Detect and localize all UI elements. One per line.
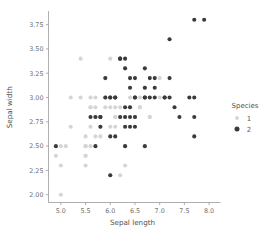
data-point <box>153 86 157 90</box>
data-point <box>118 115 122 119</box>
data-point <box>158 95 162 99</box>
data-point <box>143 86 147 90</box>
data-points-layer <box>54 18 206 197</box>
x-tick-label: 5.0 <box>56 207 66 215</box>
data-point <box>84 154 88 158</box>
legend-entry-label[interactable]: 2 <box>247 126 251 134</box>
data-point <box>118 57 122 61</box>
data-point <box>108 125 112 129</box>
data-point <box>148 76 152 80</box>
data-point <box>192 18 196 22</box>
data-point <box>98 134 102 138</box>
data-point <box>148 115 152 119</box>
data-point <box>128 95 132 99</box>
data-point <box>113 105 117 109</box>
data-point <box>168 76 172 80</box>
data-point <box>168 95 172 99</box>
data-point <box>128 105 132 109</box>
data-point <box>172 105 176 109</box>
data-point <box>113 125 117 129</box>
data-point <box>88 105 92 109</box>
y-axis-ticks: 2.002.252.502.753.003.253.503.75 <box>29 21 48 199</box>
data-point <box>123 66 127 70</box>
data-point <box>158 76 162 80</box>
data-point <box>123 164 127 168</box>
data-point <box>64 144 68 148</box>
data-point <box>192 95 196 99</box>
data-point <box>84 164 88 168</box>
data-point <box>138 105 142 109</box>
legend-marker[interactable] <box>235 116 239 120</box>
data-point <box>177 115 181 119</box>
x-tick-label: 6.0 <box>105 207 115 215</box>
chart-canvas: 5.05.56.06.57.07.58.0 2.002.252.502.753.… <box>0 0 274 239</box>
data-point <box>133 95 137 99</box>
data-point <box>192 134 196 138</box>
data-point <box>108 134 112 138</box>
data-point <box>54 154 58 158</box>
data-point <box>59 164 63 168</box>
data-point <box>103 105 107 109</box>
scatter-plot-figure: 5.05.56.06.57.07.58.0 2.002.252.502.753.… <box>0 0 274 239</box>
data-point <box>113 134 117 138</box>
data-point <box>88 125 92 129</box>
legend-entry-label[interactable]: 1 <box>247 115 251 123</box>
legend-entries: 12 <box>235 115 252 134</box>
data-point <box>123 125 127 129</box>
x-tick-label: 7.0 <box>155 207 165 215</box>
data-point <box>153 76 157 80</box>
data-point <box>103 95 107 99</box>
data-point <box>84 144 88 148</box>
data-point <box>93 144 97 148</box>
data-point <box>202 18 206 22</box>
data-point <box>88 95 92 99</box>
legend-marker[interactable] <box>235 127 240 132</box>
x-tick-label: 5.5 <box>80 207 90 215</box>
data-point <box>123 105 127 109</box>
data-point <box>88 144 92 148</box>
y-tick-label: 2.00 <box>29 191 43 199</box>
data-point <box>123 144 127 148</box>
data-point <box>123 115 127 119</box>
data-point <box>93 134 97 138</box>
data-point <box>93 95 97 99</box>
data-point <box>108 173 112 177</box>
x-axis-title: Sepal length <box>110 218 155 227</box>
data-point <box>163 95 167 99</box>
data-point <box>93 115 97 119</box>
data-point <box>79 95 83 99</box>
data-point <box>59 193 63 197</box>
legend-title: Species <box>232 102 259 110</box>
data-point <box>153 95 157 99</box>
y-tick-label: 2.50 <box>29 142 43 150</box>
x-tick-label: 8.0 <box>204 207 214 215</box>
data-point <box>54 144 58 148</box>
data-point <box>108 105 112 109</box>
y-tick-label: 3.00 <box>29 94 43 102</box>
data-point <box>108 57 112 61</box>
data-point <box>98 115 102 119</box>
data-point <box>128 115 132 119</box>
data-point <box>138 95 142 99</box>
y-tick-label: 3.50 <box>29 45 43 53</box>
y-tick-label: 2.25 <box>29 167 43 175</box>
x-axis-ticks: 5.05.56.06.57.07.58.0 <box>56 203 214 215</box>
data-point <box>113 115 117 119</box>
data-point <box>128 86 132 90</box>
y-tick-label: 3.75 <box>29 21 43 29</box>
data-point <box>118 173 122 177</box>
y-tick-label: 2.75 <box>29 118 43 126</box>
data-point <box>118 105 122 109</box>
data-point <box>133 76 137 80</box>
data-point <box>128 76 132 80</box>
y-tick-label: 3.25 <box>29 70 43 78</box>
data-point <box>133 125 137 129</box>
y-axis-title: Sepal width <box>5 86 14 128</box>
data-point <box>84 134 88 138</box>
x-tick-label: 6.5 <box>130 207 140 215</box>
axis-spines <box>49 11 221 203</box>
data-point <box>143 144 147 148</box>
data-point <box>103 76 107 80</box>
data-point <box>93 105 97 109</box>
data-point <box>123 57 127 61</box>
